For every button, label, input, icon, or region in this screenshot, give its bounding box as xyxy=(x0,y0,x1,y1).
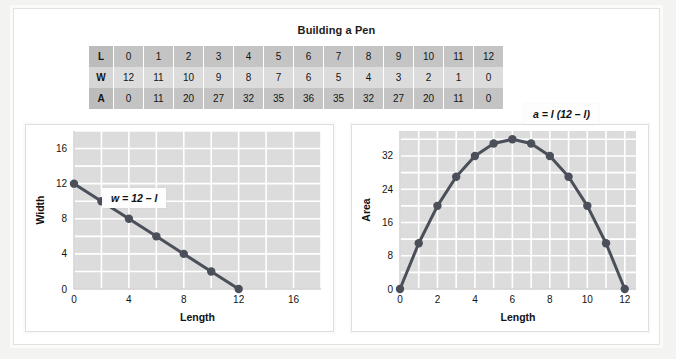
svg-text:8: 8 xyxy=(547,294,553,305)
svg-text:0: 0 xyxy=(61,284,67,295)
cell-a-7: 35 xyxy=(324,88,354,109)
cell-l-4: 4 xyxy=(234,46,264,67)
table-row: A 0 11 20 27 32 35 36 35 32 27 20 11 0 xyxy=(89,88,503,109)
cell-w-6: 6 xyxy=(294,67,324,88)
cell-w-5: 7 xyxy=(264,67,294,88)
chart-panel-area: 02468101208162432LengthArea xyxy=(351,124,649,332)
svg-text:Length: Length xyxy=(180,311,215,323)
cell-a-6: 36 xyxy=(294,88,324,109)
table-row: W 12 11 10 9 8 7 6 5 4 3 2 1 0 xyxy=(89,67,503,88)
cell-w-2: 10 xyxy=(174,67,204,88)
svg-text:10: 10 xyxy=(582,294,594,305)
cell-w-0: 12 xyxy=(114,67,144,88)
cell-a-1: 11 xyxy=(144,88,174,109)
svg-text:0: 0 xyxy=(387,284,393,295)
svg-text:6: 6 xyxy=(510,294,516,305)
cell-a-5: 35 xyxy=(264,88,294,109)
svg-text:Width: Width xyxy=(34,195,46,224)
cell-a-4: 32 xyxy=(234,88,264,109)
cell-w-10: 2 xyxy=(414,67,444,88)
svg-text:8: 8 xyxy=(181,294,187,305)
svg-text:Area: Area xyxy=(360,198,372,222)
cell-w-7: 5 xyxy=(324,67,354,88)
cell-a-8: 32 xyxy=(354,88,384,109)
table-body: L 0 1 2 3 4 5 6 7 8 9 10 11 12 xyxy=(89,46,503,109)
width-vs-length-chart: 04812160481216LengthWidth xyxy=(26,125,331,329)
area-vs-length-chart: 02468101208162432LengthArea xyxy=(352,125,646,329)
svg-text:2: 2 xyxy=(435,294,441,305)
cell-w-9: 3 xyxy=(384,67,414,88)
page-title: Building a Pen xyxy=(14,24,659,36)
svg-text:0: 0 xyxy=(71,294,77,305)
cell-a-9: 27 xyxy=(384,88,414,109)
cell-w-12: 0 xyxy=(474,67,504,88)
cell-w-11: 1 xyxy=(444,67,474,88)
svg-text:24: 24 xyxy=(382,184,394,195)
cell-a-0: 0 xyxy=(114,88,144,109)
cell-w-8: 4 xyxy=(354,67,384,88)
cell-l-10: 10 xyxy=(414,46,444,67)
cell-l-2: 2 xyxy=(174,46,204,67)
cell-l-7: 7 xyxy=(324,46,354,67)
row-header-l: L xyxy=(89,46,114,67)
cell-l-12: 12 xyxy=(474,46,504,67)
worksheet-panel: Building a Pen L 0 1 2 3 4 5 6 7 8 xyxy=(13,8,660,345)
svg-text:16: 16 xyxy=(288,294,300,305)
table-row: L 0 1 2 3 4 5 6 7 8 9 10 11 12 xyxy=(89,46,503,67)
svg-text:8: 8 xyxy=(61,213,67,224)
pen-data-table: L 0 1 2 3 4 5 6 7 8 9 10 11 12 xyxy=(89,46,503,109)
cell-a-2: 20 xyxy=(174,88,204,109)
row-header-w: W xyxy=(89,67,114,88)
cell-l-1: 1 xyxy=(144,46,174,67)
cell-l-11: 11 xyxy=(444,46,474,67)
cell-w-4: 8 xyxy=(234,67,264,88)
cell-l-3: 3 xyxy=(204,46,234,67)
cell-l-5: 5 xyxy=(264,46,294,67)
cell-a-12: 0 xyxy=(474,88,504,109)
svg-text:16: 16 xyxy=(56,143,68,154)
cell-l-8: 8 xyxy=(354,46,384,67)
cell-w-1: 11 xyxy=(144,67,174,88)
svg-text:0: 0 xyxy=(397,294,403,305)
svg-text:12: 12 xyxy=(56,178,68,189)
cell-l-9: 9 xyxy=(384,46,414,67)
svg-text:4: 4 xyxy=(126,294,132,305)
svg-text:Length: Length xyxy=(501,311,536,323)
svg-text:8: 8 xyxy=(387,250,393,261)
cell-a-10: 20 xyxy=(414,88,444,109)
svg-text:16: 16 xyxy=(382,217,394,228)
svg-text:12: 12 xyxy=(233,294,245,305)
equation-callout-area: a = l (12 – l) xyxy=(524,104,599,124)
svg-text:4: 4 xyxy=(61,248,67,259)
chart-panel-width: 04812160481216LengthWidth xyxy=(25,124,334,332)
svg-text:32: 32 xyxy=(382,150,394,161)
page-background: Building a Pen L 0 1 2 3 4 5 6 7 8 xyxy=(0,0,676,359)
cell-a-3: 27 xyxy=(204,88,234,109)
svg-text:4: 4 xyxy=(472,294,478,305)
equation-callout-width: w = 12 – l xyxy=(102,188,166,208)
cell-l-6: 6 xyxy=(294,46,324,67)
svg-text:12: 12 xyxy=(619,294,631,305)
row-header-a: A xyxy=(89,88,114,109)
cell-w-3: 9 xyxy=(204,67,234,88)
cell-a-11: 11 xyxy=(444,88,474,109)
data-table-container: L 0 1 2 3 4 5 6 7 8 9 10 11 12 xyxy=(89,46,503,109)
cell-l-0: 0 xyxy=(114,46,144,67)
